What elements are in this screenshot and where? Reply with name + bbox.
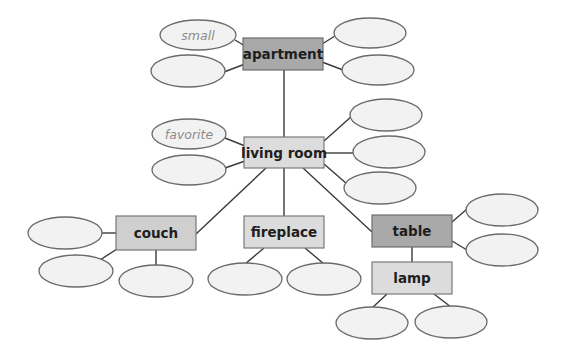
- descriptor-ellipse[interactable]: [39, 255, 113, 287]
- descriptor-ellipse[interactable]: [350, 99, 422, 131]
- descriptor-ellipse[interactable]: favorite: [152, 119, 226, 149]
- descriptor-ellipse[interactable]: [334, 18, 406, 48]
- node-label: couch: [134, 225, 179, 241]
- descriptor-ellipse[interactable]: [287, 263, 361, 295]
- node-label: fireplace: [251, 224, 317, 240]
- descriptor-ellipse[interactable]: [344, 172, 416, 204]
- node-couch[interactable]: couch: [116, 216, 196, 250]
- descriptor-ellipse[interactable]: [208, 263, 282, 295]
- descriptor-ellipse[interactable]: [28, 217, 102, 249]
- node-lamp[interactable]: lamp: [372, 262, 452, 294]
- fireplace-descriptors: [208, 263, 361, 295]
- descriptor-ellipse[interactable]: [151, 55, 225, 87]
- table-descriptors: [466, 194, 538, 266]
- node-apartment[interactable]: apartment: [243, 38, 324, 70]
- descriptor-text: small: [181, 28, 215, 43]
- descriptor-ellipse[interactable]: [466, 234, 538, 266]
- descriptor-ellipse[interactable]: [119, 265, 193, 297]
- descriptor-ellipse[interactable]: [336, 307, 408, 339]
- descriptor-ellipse[interactable]: [342, 55, 414, 85]
- descriptor-ellipse[interactable]: [466, 194, 538, 226]
- descriptor-ellipse[interactable]: [152, 155, 226, 185]
- node-label: table: [392, 223, 431, 239]
- descriptor-ellipse[interactable]: [415, 306, 487, 338]
- node-living-room[interactable]: living room: [241, 137, 327, 168]
- node-fireplace[interactable]: fireplace: [244, 216, 324, 248]
- node-label: apartment: [243, 46, 324, 62]
- node-label: lamp: [393, 270, 431, 286]
- word-web-diagram: small favorite: [0, 0, 569, 360]
- node-table[interactable]: table: [372, 215, 452, 247]
- descriptor-ellipse[interactable]: [353, 136, 425, 168]
- descriptor-ellipse[interactable]: small: [160, 20, 236, 50]
- lamp-descriptors: [336, 306, 487, 339]
- descriptor-text: favorite: [165, 127, 214, 142]
- node-label: living room: [241, 145, 327, 161]
